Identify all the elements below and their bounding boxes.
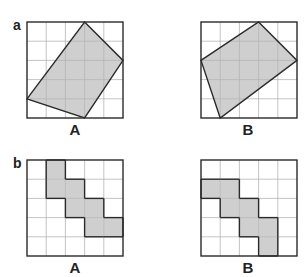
figure-b-B-shaded-cell — [201, 179, 220, 198]
figure-b-A-shaded-cell — [46, 160, 65, 179]
figure-b-B-shaded-cell — [259, 237, 278, 256]
diagram-canvas — [0, 0, 307, 277]
figure-b-B-shaded-cell — [239, 198, 258, 217]
figure-b-A-shaded-cell — [65, 198, 84, 217]
figure-b-A-shaded-cell — [104, 218, 123, 237]
figure-b-A-shaded-cell — [65, 179, 84, 198]
figure-b-A-shaded-cell — [46, 179, 65, 198]
figure-b-A-shaded-cell — [85, 198, 104, 217]
figure-b-B-shaded-cell — [259, 218, 278, 237]
figure-b-B-shaded-cell — [220, 198, 239, 217]
figure-b-B-shaded-cell — [239, 218, 258, 237]
figure-b-B-shaded-cell — [220, 179, 239, 198]
figure-b-A-shaded-cell — [85, 218, 104, 237]
